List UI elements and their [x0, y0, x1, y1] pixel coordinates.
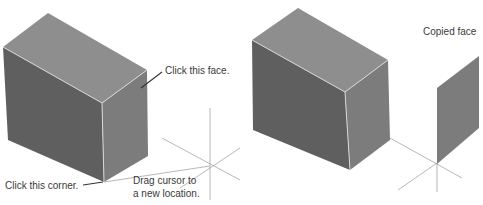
label-click-face: Click this face.	[165, 65, 229, 77]
box-after-copy	[252, 8, 390, 170]
label-drag-line1: Drag cursor to	[133, 175, 196, 187]
diagram-canvas	[0, 0, 483, 205]
copied-face	[437, 56, 479, 164]
label-copied-face: Copied face	[423, 26, 476, 38]
label-click-corner: Click this corner.	[5, 180, 78, 192]
box-original	[3, 13, 148, 182]
copy-face-diagram: Click this face. Click this corner. Drag…	[0, 0, 483, 205]
corner-leader	[83, 182, 103, 185]
label-drag-line2: a new location.	[133, 188, 200, 200]
